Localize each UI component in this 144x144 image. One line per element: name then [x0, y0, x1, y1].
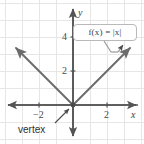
x-tick-label-neg2: −2 — [33, 110, 44, 120]
curve-left-branch — [16, 48, 73, 105]
function-callout-box: f(x) = |x| — [73, 24, 137, 41]
x-axis-label: x — [131, 110, 135, 120]
x-tick-label-pos2: 2 — [104, 110, 109, 120]
graph-canvas — [0, 0, 144, 144]
y-axis-label: y — [78, 8, 82, 18]
vertex-label: vertex — [18, 125, 45, 135]
y-tick-label-4: 4 — [62, 32, 67, 42]
vertex-point — [71, 103, 76, 108]
vertex-leader — [55, 109, 69, 123]
curve-right-branch — [73, 48, 130, 105]
absolute-value-function-graph: −2 2 2 4 x y vertex f(x) = |x| — [0, 0, 144, 144]
function-callout-text: f(x) = |x| — [88, 28, 121, 37]
grid-lines — [0, 0, 144, 144]
y-tick-label-2: 2 — [62, 66, 67, 76]
